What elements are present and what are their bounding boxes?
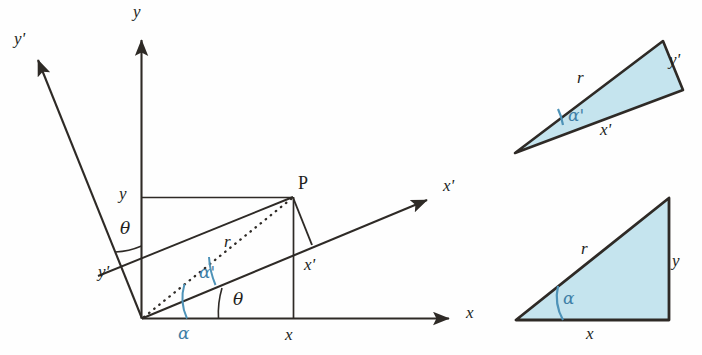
- y-coordinate-label: y: [119, 185, 127, 202]
- x-coordinate-label: x: [285, 326, 293, 343]
- diagram-canvas: [0, 0, 702, 355]
- point-p-label: P: [298, 174, 308, 192]
- y-prime-axis-label: y': [14, 30, 25, 47]
- original-frame-triangle-shape: [516, 198, 669, 320]
- y-axis-label: y: [133, 3, 141, 20]
- tr-y-prime-side-label: y': [669, 51, 680, 68]
- tr-radius-label: r: [577, 69, 584, 86]
- alpha-angle-label: α: [178, 325, 189, 342]
- theta-origin-angle-label: θ: [233, 291, 243, 308]
- triangle-top-right-group: [515, 41, 683, 153]
- tr-alpha-prime-angle-label: α': [568, 107, 584, 124]
- x-axis-label: x: [466, 304, 474, 321]
- radius-label: r: [224, 233, 231, 250]
- br-y-side-label: y: [672, 252, 680, 269]
- triangle-bottom-right-group: [516, 198, 669, 320]
- x-prime-axis-label: x': [443, 177, 454, 194]
- br-radius-label: r: [581, 240, 588, 257]
- theta-origin-angle-arc: [218, 288, 222, 319]
- theta-axis-angle-label: θ: [120, 220, 130, 237]
- rotated-frame-triangle-shape: [515, 41, 683, 153]
- x-prime-projection-line: [293, 198, 312, 246]
- radius-dotted-line: [144, 199, 291, 317]
- figure-container: x y x' y' y x y' x' r P θ θ α α' r α' x'…: [0, 0, 702, 355]
- br-x-side-label: x: [586, 325, 594, 342]
- x-prime-coordinate-label: x': [304, 256, 315, 273]
- tr-x-prime-side-label: x': [600, 121, 611, 138]
- br-alpha-angle-label: α: [563, 290, 574, 307]
- alpha-prime-angle-label: α': [199, 264, 215, 281]
- y-prime-coordinate-label: y': [98, 263, 109, 280]
- theta-axis-angle-arc: [116, 246, 142, 252]
- x-prime-axis-line: [142, 200, 427, 319]
